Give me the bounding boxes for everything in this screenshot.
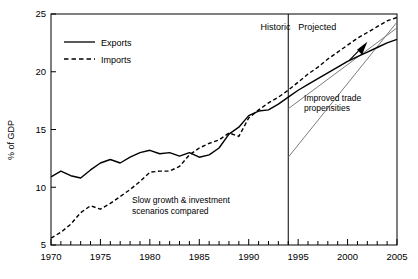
projected-band-label: Projected (298, 22, 336, 32)
y-tick-label-25: 25 (35, 8, 46, 19)
scenarios-note-line-1: Slow growth & investment (132, 195, 230, 205)
historic-band-label: Historic (261, 22, 292, 32)
x-tick-label-1995: 1995 (288, 251, 309, 262)
x-tick-label-1990: 1990 (238, 251, 259, 262)
x-tick-label-1980: 1980 (139, 251, 160, 262)
x-tick-label-2005: 2005 (386, 251, 407, 262)
scenarios-note-line-2: scenarios compared (132, 206, 209, 216)
y-tick-label-5: 5 (41, 239, 46, 250)
chart-canvas: 510152025 197019751980198519901995200020… (0, 0, 418, 279)
legend-label-exports: Exports (101, 38, 132, 48)
x-tick-label-1975: 1975 (90, 251, 111, 262)
trade-chart: 510152025 197019751980198519901995200020… (0, 0, 418, 279)
legend-label-imports: Imports (101, 55, 132, 65)
improved-trade-note-line-2: propensities (304, 103, 350, 113)
y-tick-label-15: 15 (35, 124, 46, 135)
x-tick-label-2000: 2000 (337, 251, 358, 262)
plot-frame (51, 14, 397, 245)
y-tick-label-10: 10 (35, 182, 46, 193)
plot-area-border (51, 14, 397, 245)
x-tick-label-1985: 1985 (189, 251, 210, 262)
x-tick-label-1970: 1970 (40, 251, 61, 262)
y-axis-title: % of GDP (6, 120, 16, 160)
y-tick-label-20: 20 (35, 66, 46, 77)
improved-trade-note-line-1: Improved trade (304, 93, 361, 103)
